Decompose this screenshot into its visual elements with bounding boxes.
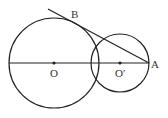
geometry-diagram: B O O′ A <box>0 0 168 118</box>
center-point-O-prime <box>118 61 121 64</box>
label-O-prime: O′ <box>115 67 125 79</box>
label-A: A <box>151 58 159 70</box>
diagram-canvas: B O O′ A <box>0 0 168 118</box>
center-point-O <box>52 61 55 64</box>
label-O: O <box>50 67 58 79</box>
label-B: B <box>71 8 78 20</box>
